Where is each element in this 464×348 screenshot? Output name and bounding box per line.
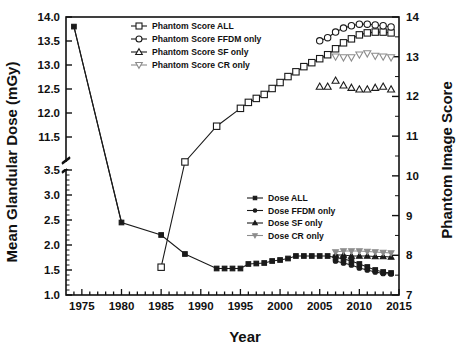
data-point xyxy=(278,258,283,263)
data-point xyxy=(372,53,379,59)
x-tick-label: 1985 xyxy=(148,300,174,312)
data-point xyxy=(182,159,188,165)
data-point xyxy=(253,209,256,212)
data-point xyxy=(325,254,330,259)
y-left-tick-label: 1.0 xyxy=(44,289,60,301)
data-point xyxy=(380,83,387,89)
data-point xyxy=(309,254,314,259)
y-left-tick-label: 12.5 xyxy=(38,83,61,95)
x-tick-label: 1995 xyxy=(228,300,254,312)
y-axis-left-title: Mean Glandular Dose (mGy) xyxy=(3,62,20,263)
data-point xyxy=(349,249,355,254)
data-point xyxy=(365,268,370,273)
y-right-tick-label: 9 xyxy=(406,210,412,222)
legend-label: Phantom Score ALL xyxy=(152,21,234,31)
data-point xyxy=(332,54,339,60)
y-left-tick-label: 12.0 xyxy=(38,107,60,119)
y-left-tick-label: 2.0 xyxy=(44,239,60,251)
series-phantom-score-cr-only xyxy=(332,51,395,61)
data-point xyxy=(340,82,347,88)
series-phantom-score-sf-only xyxy=(316,77,394,92)
data-point xyxy=(332,29,338,35)
data-point xyxy=(333,250,339,255)
data-point xyxy=(253,221,258,225)
legend-item: Phantom Score ALL xyxy=(131,21,234,31)
data-point xyxy=(309,59,315,65)
data-point xyxy=(356,52,363,58)
data-point xyxy=(293,69,299,75)
legend-phantom-score: Phantom Score ALLPhantom Score FFDM only… xyxy=(131,21,262,70)
data-point xyxy=(324,83,331,89)
data-point xyxy=(253,196,256,199)
data-point xyxy=(364,51,371,57)
data-point xyxy=(286,256,291,261)
data-point xyxy=(119,220,124,225)
legend-item: Dose FFDM only xyxy=(247,206,336,216)
legend-label: Dose SF only xyxy=(268,218,323,228)
data-point xyxy=(270,259,275,264)
legend-label: Dose CR only xyxy=(268,231,324,241)
data-point xyxy=(237,105,243,111)
data-point xyxy=(333,259,338,264)
data-point xyxy=(269,85,275,91)
data-point xyxy=(294,254,299,259)
data-point xyxy=(348,23,354,29)
data-point xyxy=(388,24,394,30)
axis-break-mask xyxy=(67,162,398,169)
y-right-tick-label: 7 xyxy=(406,289,412,301)
legend-dose: Dose ALLDose FFDM onlyDose SF onlyDose C… xyxy=(247,193,336,241)
legend-label: Dose ALL xyxy=(268,193,308,203)
data-point xyxy=(302,254,307,259)
data-point xyxy=(356,249,362,254)
data-point xyxy=(238,266,243,271)
data-point xyxy=(364,86,371,92)
y-left-tick-label: 14.0 xyxy=(38,11,60,23)
data-point xyxy=(254,261,259,266)
data-point xyxy=(253,95,259,101)
data-point xyxy=(277,79,283,85)
x-tick-label: 2015 xyxy=(386,300,412,312)
data-point xyxy=(261,91,267,97)
y-right-tick-label: 14 xyxy=(406,11,419,23)
data-point xyxy=(332,46,338,52)
x-tick-label: 1990 xyxy=(188,300,214,312)
data-point xyxy=(316,83,323,89)
y-axis-right-score: 7891011121314 xyxy=(392,11,419,301)
data-point xyxy=(317,38,323,44)
data-point xyxy=(340,55,347,61)
data-point xyxy=(332,77,339,83)
data-point xyxy=(301,63,307,69)
plot-frame xyxy=(62,17,399,295)
data-point xyxy=(136,36,142,42)
data-point xyxy=(381,271,386,276)
data-point xyxy=(341,261,346,266)
x-tick-label: 1980 xyxy=(109,300,135,312)
legend-item: Phantom Score CR only xyxy=(131,60,250,70)
data-point xyxy=(136,23,142,29)
data-point xyxy=(380,23,386,29)
data-point xyxy=(364,30,370,36)
y-right-tick-label: 13 xyxy=(406,51,419,63)
data-point xyxy=(356,86,363,92)
data-point xyxy=(380,54,387,60)
mean-glandular-dose-phantom-score-chart: 197519801985199019952000200520102015 11.… xyxy=(0,0,464,348)
y-right-tick-label: 8 xyxy=(406,249,413,261)
data-point xyxy=(246,262,251,267)
data-point xyxy=(372,250,378,255)
legend-label: Phantom Score FFDM only xyxy=(152,34,262,44)
data-point xyxy=(245,99,251,105)
y-left-tick-label: 3.0 xyxy=(44,189,60,201)
data-point xyxy=(364,21,370,27)
data-point xyxy=(348,84,355,90)
data-point xyxy=(253,234,258,238)
y-right-tick-label: 12 xyxy=(406,90,419,102)
y-left-tick-label: 13.0 xyxy=(38,59,60,71)
data-point xyxy=(214,266,219,271)
data-point xyxy=(340,25,346,31)
data-point xyxy=(324,34,330,40)
data-point xyxy=(285,73,291,79)
data-point xyxy=(183,252,188,257)
y-left-tick-label: 3.5 xyxy=(44,164,61,176)
data-point xyxy=(340,40,346,46)
legend-label: Phantom Score CR only xyxy=(152,60,250,70)
